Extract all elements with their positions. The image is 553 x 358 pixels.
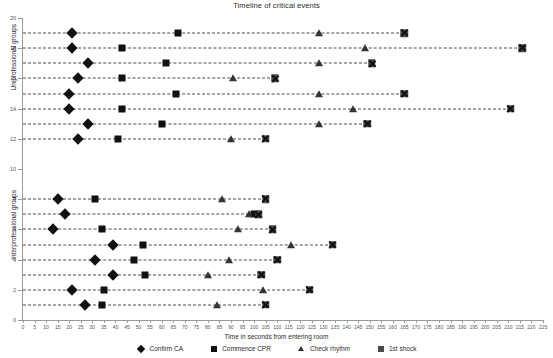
marker-confirm-ca[interactable] <box>73 73 84 84</box>
x-tick-label: 155 <box>377 324 385 330</box>
x-tick <box>115 320 116 323</box>
x-tick-label: 195 <box>469 324 477 330</box>
marker-commence-cpr[interactable] <box>114 135 121 142</box>
marker-confirm-ca[interactable] <box>66 284 77 295</box>
marker-commence-cpr[interactable] <box>163 60 170 67</box>
marker-first-shock[interactable] <box>262 301 270 309</box>
y-tick <box>18 290 23 291</box>
marker-first-shock[interactable] <box>255 211 263 219</box>
marker-check-rhythm[interactable] <box>227 135 235 142</box>
x-tick <box>231 320 232 323</box>
marker-first-shock[interactable] <box>364 120 372 128</box>
x-tick-label: 55 <box>147 324 153 330</box>
marker-commence-cpr[interactable] <box>119 105 126 112</box>
x-tick <box>543 320 544 323</box>
marker-confirm-ca[interactable] <box>107 239 118 250</box>
marker-commence-cpr[interactable] <box>172 90 179 97</box>
marker-check-rhythm[interactable] <box>218 195 226 202</box>
marker-confirm-ca[interactable] <box>66 27 77 38</box>
x-tick-label: 90 <box>228 324 234 330</box>
marker-first-shock[interactable] <box>306 286 314 294</box>
square-icon <box>209 344 218 353</box>
marker-commence-cpr[interactable] <box>142 271 149 278</box>
legend-item-check-rhythm[interactable]: Check rhythm <box>297 344 350 353</box>
marker-check-rhythm[interactable] <box>315 90 323 97</box>
x-tick <box>127 320 128 323</box>
y-tick-label: 10 <box>0 166 16 172</box>
marker-confirm-ca[interactable] <box>47 224 58 235</box>
marker-first-shock[interactable] <box>401 29 409 37</box>
marker-first-shock[interactable] <box>368 60 376 68</box>
marker-check-rhythm[interactable] <box>229 75 237 82</box>
marker-confirm-ca[interactable] <box>66 43 77 54</box>
x-tick <box>139 320 140 323</box>
marker-commence-cpr[interactable] <box>174 30 181 37</box>
marker-first-shock[interactable] <box>257 271 265 279</box>
marker-confirm-ca[interactable] <box>80 299 91 310</box>
marker-commence-cpr[interactable] <box>100 286 107 293</box>
marker-confirm-ca[interactable] <box>52 194 63 205</box>
legend-item-commence-cpr[interactable]: Commence CPR <box>209 344 271 353</box>
marker-check-rhythm[interactable] <box>204 271 212 278</box>
x-tick <box>300 320 301 323</box>
marker-first-shock[interactable] <box>269 226 277 234</box>
marker-first-shock[interactable] <box>262 195 270 203</box>
marker-commence-cpr[interactable] <box>91 196 98 203</box>
marker-confirm-ca[interactable] <box>64 103 75 114</box>
marker-first-shock[interactable] <box>262 135 270 143</box>
y-tick <box>18 139 23 140</box>
marker-check-rhythm[interactable] <box>361 44 369 51</box>
marker-first-shock[interactable] <box>329 241 337 249</box>
marker-commence-cpr[interactable] <box>98 226 105 233</box>
x-tick <box>92 320 93 323</box>
marker-confirm-ca[interactable] <box>73 133 84 144</box>
x-tick-label: 120 <box>296 324 304 330</box>
marker-first-shock[interactable] <box>518 44 526 52</box>
x-tick <box>347 320 348 323</box>
marker-commence-cpr[interactable] <box>119 45 126 52</box>
marker-confirm-ca[interactable] <box>89 254 100 265</box>
x-tick-label: 30 <box>90 324 96 330</box>
x-tick <box>150 320 151 323</box>
marker-check-rhythm[interactable] <box>245 210 253 217</box>
marker-first-shock[interactable] <box>271 75 279 83</box>
marker-commence-cpr[interactable] <box>158 120 165 127</box>
marker-check-rhythm[interactable] <box>213 301 221 308</box>
marker-commence-cpr[interactable] <box>119 75 126 82</box>
x-tick <box>485 320 486 323</box>
marker-check-rhythm[interactable] <box>315 120 323 127</box>
marker-confirm-ca[interactable] <box>82 58 93 69</box>
marker-check-rhythm[interactable] <box>259 286 267 293</box>
marker-first-shock[interactable] <box>273 256 281 264</box>
x-tick <box>196 320 197 323</box>
x-tick <box>185 320 186 323</box>
marker-confirm-ca[interactable] <box>59 209 70 220</box>
marker-check-rhythm[interactable] <box>225 256 233 263</box>
marker-check-rhythm[interactable] <box>234 226 242 233</box>
y-tick-label: 0 <box>0 317 16 323</box>
marker-check-rhythm[interactable] <box>315 29 323 36</box>
marker-confirm-ca[interactable] <box>107 269 118 280</box>
legend-item-confirm-ca[interactable]: Confirm CA <box>137 344 184 353</box>
marker-check-rhythm[interactable] <box>287 241 295 248</box>
marker-commence-cpr[interactable] <box>98 301 105 308</box>
marker-commence-cpr[interactable] <box>130 256 137 263</box>
x-tick-label: 125 <box>308 324 316 330</box>
x-tick-label: 25 <box>78 324 84 330</box>
row-connector-line <box>23 108 511 109</box>
marker-first-shock[interactable] <box>401 90 409 98</box>
marker-confirm-ca[interactable] <box>64 88 75 99</box>
x-tick-label: 70 <box>182 324 188 330</box>
row-connector-line <box>23 93 404 94</box>
x-tick-label: 50 <box>136 324 142 330</box>
x-tick-label: 110 <box>273 324 281 330</box>
x-tick-label: 95 <box>240 324 246 330</box>
marker-commence-cpr[interactable] <box>140 241 147 248</box>
marker-confirm-ca[interactable] <box>82 118 93 129</box>
x-tick <box>277 320 278 323</box>
marker-first-shock[interactable] <box>507 105 515 113</box>
marker-check-rhythm[interactable] <box>315 59 323 66</box>
x-tick-label: 190 <box>458 324 466 330</box>
marker-check-rhythm[interactable] <box>349 105 357 112</box>
legend-item-first-shock[interactable]: 1st shock <box>376 344 416 353</box>
